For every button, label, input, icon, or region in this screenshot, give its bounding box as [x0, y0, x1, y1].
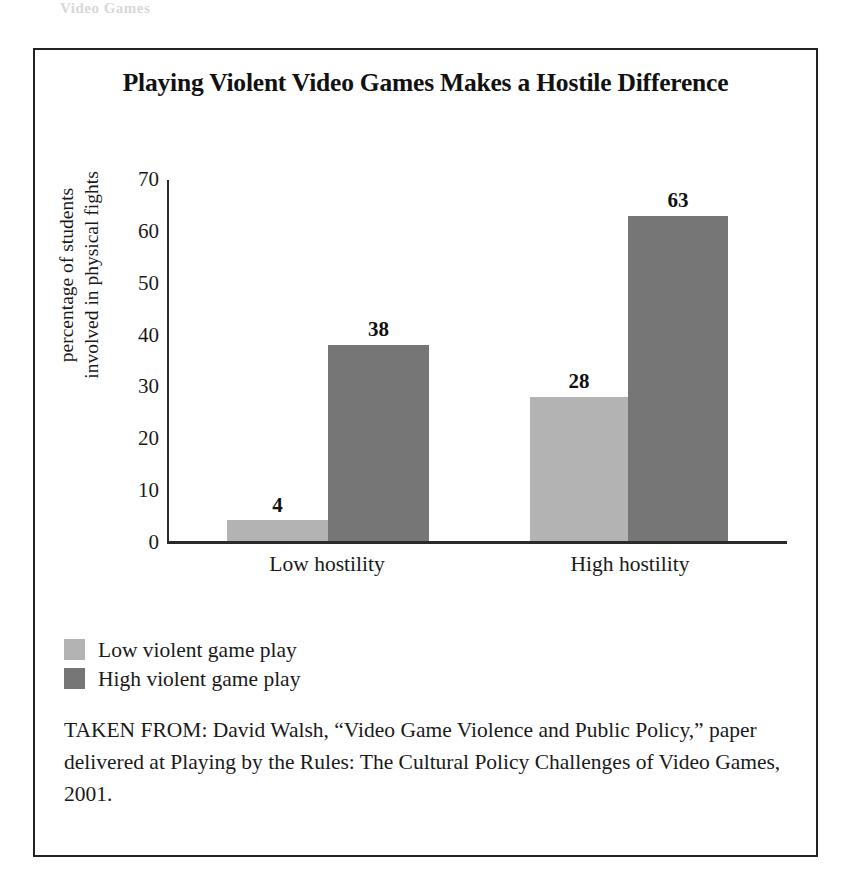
y-tick-20: 20: [119, 428, 159, 449]
page-running-head: Video Games: [60, 0, 150, 17]
bar-value-low-hostility-high-play: 38: [328, 317, 429, 342]
chart-legend: Low violent game play High violent game …: [64, 635, 300, 693]
bar-low-hostility-high-play[interactable]: [328, 345, 429, 541]
legend-swatch-dark-icon: [64, 668, 85, 689]
legend-label-high-violent-game-play: High violent game play: [98, 667, 300, 691]
y-tick-30: 30: [119, 376, 159, 397]
y-tick-10: 10: [119, 480, 159, 501]
y-axis-title-line-1: percentage of students: [54, 125, 79, 425]
figure-container: Playing Violent Video Games Makes a Host…: [33, 48, 818, 857]
x-axis-line: [167, 541, 787, 544]
x-axis-category-high-hostility: High hostility: [530, 552, 730, 577]
x-axis-category-low-hostility: Low hostility: [227, 552, 427, 577]
y-axis-title: percentage of students involved in physi…: [54, 125, 104, 425]
y-tick-0: 0: [119, 532, 159, 553]
y-tick-40: 40: [119, 325, 159, 346]
legend-item-low-violent-game-play[interactable]: Low violent game play: [64, 635, 300, 664]
y-tick-60: 60: [119, 221, 159, 242]
y-tick-50: 50: [119, 273, 159, 294]
bar-low-hostility-low-play[interactable]: [227, 520, 328, 541]
legend-item-high-violent-game-play[interactable]: High violent game play: [64, 664, 300, 693]
bar-value-low-hostility-low-play: 4: [227, 493, 328, 518]
bar-value-high-hostility-low-play: 28: [530, 369, 628, 394]
bars-layer: 4 38 28 63: [167, 180, 787, 541]
legend-label-low-violent-game-play: Low violent game play: [98, 638, 297, 662]
legend-swatch-light-icon: [64, 639, 85, 660]
y-tick-70: 70: [119, 169, 159, 190]
y-axis-title-line-2: involved in physical fights: [79, 125, 104, 425]
bar-value-high-hostility-high-play: 63: [628, 188, 728, 213]
bar-high-hostility-low-play[interactable]: [530, 397, 628, 541]
source-attribution: TAKEN FROM: David Walsh, “Video Game Vio…: [64, 714, 790, 810]
bar-high-hostility-high-play[interactable]: [628, 216, 728, 541]
